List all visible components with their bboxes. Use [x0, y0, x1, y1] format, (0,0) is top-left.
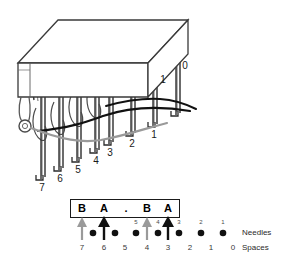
needle-dot-5 — [112, 230, 119, 237]
needle-dot-label-1: 1 — [218, 219, 228, 226]
needle-dot-label-2: 2 — [196, 219, 206, 226]
needle-dot-label-3: 3 — [174, 219, 184, 226]
needle-dot-0 — [220, 230, 227, 237]
needle-dot-6 — [90, 230, 97, 237]
space-label-4: 4 — [141, 243, 153, 252]
needle-dot-4 — [133, 230, 140, 237]
arrow-slot-6 — [98, 216, 110, 240]
needle-dot-label-4: 4 — [153, 219, 163, 226]
arrow-slot-4 — [142, 217, 152, 240]
space-label-2: 2 — [184, 243, 196, 252]
space-label-5: 5 — [119, 243, 131, 252]
space-label-3: 3 — [162, 243, 174, 252]
arrow-slot-3 — [162, 216, 174, 240]
needle-dots — [90, 230, 227, 237]
needle-dot-1 — [198, 230, 205, 237]
space-label-7: 7 — [76, 243, 88, 252]
space-label-1: 1 — [205, 243, 217, 252]
needle-dot-3 — [155, 230, 162, 237]
space-label-0: 0 — [227, 243, 239, 252]
needle-dot-2 — [176, 230, 183, 237]
needle-dot-label-5: 5 — [131, 219, 141, 226]
arrow-slot-7 — [77, 217, 87, 240]
diagram-canvas: 7 6 5 4 3 2 1 1 0 B A . B A — [0, 0, 298, 269]
space-label-6: 6 — [98, 243, 110, 252]
spaces-row-label: Spaces — [242, 243, 269, 252]
needles-row-label: Needles — [242, 228, 271, 237]
